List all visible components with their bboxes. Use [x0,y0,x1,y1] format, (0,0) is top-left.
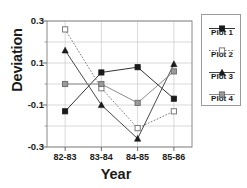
marker-filled-square [135,65,140,70]
legend-marker-icon [202,19,242,28]
marker-open-square [219,48,224,53]
deviation-line-chart: Deviation 0.30.1-0.1-0.3 82-8383-8484-85… [0,0,247,188]
legend-marker-icon [202,41,242,50]
marker-gray-square [99,81,104,86]
x-tick-label: 85-86 [151,152,197,162]
legend-marker-icon [202,85,242,94]
marker-gray-square [63,81,68,86]
marker-gray-square [135,100,140,105]
legend-item-4: Plot 4 [202,85,242,104]
marker-gray-square [219,92,224,97]
x-axis-title: Year [44,166,188,182]
marker-open-square [135,126,140,131]
series-4 [63,69,177,106]
marker-open-square [63,27,68,32]
marker-filled-square [171,96,176,101]
legend-marker-icon [202,63,242,72]
marker-open-square [171,109,176,114]
marker-gray-square [171,69,176,74]
series-3 [62,47,177,141]
marker-filled-triangle [62,47,68,53]
legend-item-3: Plot 3 [202,63,242,82]
marker-filled-square [219,26,224,31]
series-line [65,29,174,128]
legend: Plot 1Plot 2Plot 3Plot 4 [201,14,241,106]
legend-item-2: Plot 2 [202,41,242,60]
marker-filled-square [99,70,104,75]
legend-item-1: Plot 1 [202,19,242,38]
series-2 [63,27,177,131]
marker-filled-triangle [171,61,177,67]
marker-filled-square [63,109,68,114]
